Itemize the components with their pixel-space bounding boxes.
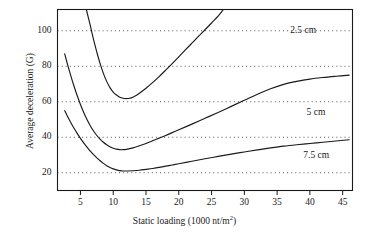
x-tick-label: 20 (164, 198, 194, 208)
x-tick-label: 45 (328, 198, 358, 208)
curve-2-5-cm (86, 10, 223, 99)
series-label-2-5-cm: 2.5 cm (290, 25, 316, 35)
x-tick-label: 5 (65, 198, 95, 208)
axes-frame (58, 10, 353, 191)
y-axis-title: Average deceleration (G) (25, 11, 35, 191)
series-label-5-cm: 5 cm (307, 107, 326, 117)
x-tick-label: 40 (295, 198, 325, 208)
x-tick-label: 25 (197, 198, 227, 208)
x-axis-title-tail: ) (233, 216, 236, 226)
curve-7-5-cm (65, 111, 350, 171)
series-label-7-5-cm: 7.5 cm (303, 150, 329, 160)
x-tick-label: 30 (229, 198, 259, 208)
x-axis-ticks (80, 191, 342, 196)
plot-frame (58, 10, 353, 191)
x-axis-title: Static loading (1000 nt/m2) (0, 216, 369, 226)
x-tick-label: 15 (131, 198, 161, 208)
chart-figure: 20406080100 51015202530354045 2.5 cm5 cm… (0, 0, 369, 241)
x-tick-label: 10 (98, 198, 128, 208)
x-axis-title-base: Static loading (1000 nt/m (133, 216, 230, 226)
x-tick-label: 35 (262, 198, 292, 208)
